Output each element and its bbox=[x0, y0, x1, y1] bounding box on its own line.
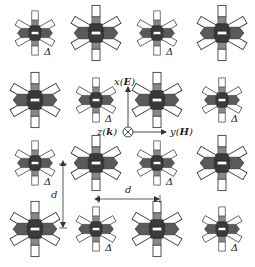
y-axis-label: y(H) bbox=[170, 127, 193, 137]
delta-label: Δ bbox=[44, 47, 51, 57]
vertical-period-label: d bbox=[51, 190, 57, 200]
vertical-stub-bottom bbox=[153, 109, 161, 116]
center-gap bbox=[152, 227, 161, 230]
vertical-arm-bottom bbox=[153, 116, 161, 128]
vertical-stub-top bbox=[218, 147, 226, 154]
vertical-arm-bottom bbox=[219, 242, 225, 251]
metamolecule-large bbox=[10, 201, 60, 256]
vertical-arm-top bbox=[32, 11, 38, 20]
vertical-arm-bottom bbox=[93, 113, 99, 122]
delta-label: Δ bbox=[166, 47, 173, 57]
delta-label: Δ bbox=[105, 114, 112, 124]
center-gap bbox=[30, 98, 39, 101]
vertical-arm-bottom bbox=[93, 242, 99, 251]
vertical-arm-top bbox=[92, 5, 100, 16]
metamolecule-large bbox=[197, 135, 247, 190]
vertical-arm-bottom bbox=[218, 179, 226, 191]
center-gap bbox=[217, 161, 226, 164]
center-gap bbox=[31, 32, 38, 35]
vertical-arm-top bbox=[32, 141, 38, 150]
delta-label: Δ bbox=[166, 177, 173, 187]
vertical-stub-bottom bbox=[92, 42, 100, 49]
metamolecule-large bbox=[10, 72, 60, 127]
vertical-arm-bottom bbox=[219, 113, 225, 122]
horizontal-period-label: d bbox=[125, 185, 131, 195]
vertical-arm-top bbox=[218, 135, 226, 147]
center-gap bbox=[218, 228, 225, 231]
vertical-arm-top bbox=[219, 207, 225, 216]
vertical-stub-top bbox=[153, 84, 161, 91]
z-axis-field: k bbox=[106, 126, 113, 137]
vertical-stub-top bbox=[31, 84, 39, 91]
vertical-arm-bottom bbox=[92, 179, 100, 191]
vertical-arm-top bbox=[92, 135, 100, 147]
y-axis-field: H bbox=[180, 126, 189, 137]
vertical-stub-bottom bbox=[32, 40, 38, 46]
vertical-arm-top bbox=[154, 141, 160, 150]
vertical-stub-top bbox=[93, 216, 99, 222]
delta-label: Δ bbox=[105, 243, 112, 253]
vertical-stub-bottom bbox=[154, 40, 160, 46]
z-axis-label: z(k) bbox=[97, 127, 117, 137]
center-gap bbox=[153, 32, 160, 35]
center-gap bbox=[152, 98, 161, 101]
delta-label: Δ bbox=[44, 177, 51, 187]
x-axis-field: E bbox=[124, 76, 132, 87]
vertical-stub-top bbox=[31, 213, 39, 220]
vertical-arm-bottom bbox=[32, 176, 38, 185]
vertical-arm-bottom bbox=[153, 245, 161, 257]
vertical-stub-top bbox=[32, 20, 38, 26]
center-gap bbox=[218, 99, 225, 102]
delta-label: Δ bbox=[231, 114, 238, 124]
vertical-arm-bottom bbox=[32, 46, 38, 55]
z-axis-var: z bbox=[97, 126, 102, 137]
vertical-arm-top bbox=[31, 201, 39, 213]
vertical-stub-bottom bbox=[219, 107, 225, 113]
vertical-arm-bottom bbox=[154, 176, 160, 185]
vertical-stub-bottom bbox=[32, 170, 38, 176]
vertical-stub-top bbox=[93, 87, 99, 93]
center-gap bbox=[31, 162, 38, 165]
center-gap bbox=[153, 162, 160, 165]
vertical-arm-bottom bbox=[92, 49, 100, 61]
vertical-stub-bottom bbox=[31, 109, 39, 116]
vertical-arm-top bbox=[219, 78, 225, 87]
metamolecule-large bbox=[71, 5, 121, 60]
vertical-stub-top bbox=[92, 17, 100, 24]
metamaterial-lattice-diagram bbox=[0, 0, 255, 267]
center-gap bbox=[92, 228, 99, 231]
metamolecule-large bbox=[132, 201, 182, 256]
vertical-stub-top bbox=[154, 150, 160, 156]
metamolecule-large bbox=[71, 135, 121, 190]
vertical-stub-bottom bbox=[153, 238, 161, 245]
vertical-stub-bottom bbox=[154, 170, 160, 176]
x-axis-var: x bbox=[114, 76, 120, 87]
center-gap bbox=[92, 99, 99, 102]
center-gap bbox=[91, 31, 100, 34]
vertical-arm-top bbox=[218, 5, 226, 16]
vertical-stub-top bbox=[219, 216, 225, 222]
x-axis-label: x(E) bbox=[114, 77, 135, 87]
vertical-stub-top bbox=[219, 87, 225, 93]
metamolecule-large bbox=[132, 72, 182, 127]
y-axis-var: y bbox=[170, 126, 176, 137]
vertical-arm-top bbox=[31, 72, 39, 84]
vertical-arm-top bbox=[93, 78, 99, 87]
vertical-arm-top bbox=[153, 201, 161, 213]
vertical-stub-bottom bbox=[93, 236, 99, 242]
vertical-stub-top bbox=[218, 17, 226, 24]
delta-label: Δ bbox=[231, 243, 238, 253]
vertical-stub-top bbox=[32, 150, 38, 156]
vertical-arm-top bbox=[154, 11, 160, 20]
center-gap bbox=[217, 31, 226, 34]
vertical-stub-bottom bbox=[219, 236, 225, 242]
vertical-arm-top bbox=[93, 207, 99, 216]
vertical-arm-top bbox=[153, 72, 161, 84]
vertical-stub-bottom bbox=[31, 238, 39, 245]
vertical-stub-top bbox=[92, 147, 100, 154]
center-gap bbox=[30, 227, 39, 230]
vertical-stub-bottom bbox=[218, 172, 226, 179]
metamolecule-large bbox=[197, 5, 247, 60]
vertical-stub-bottom bbox=[93, 107, 99, 113]
center-gap bbox=[91, 161, 100, 164]
